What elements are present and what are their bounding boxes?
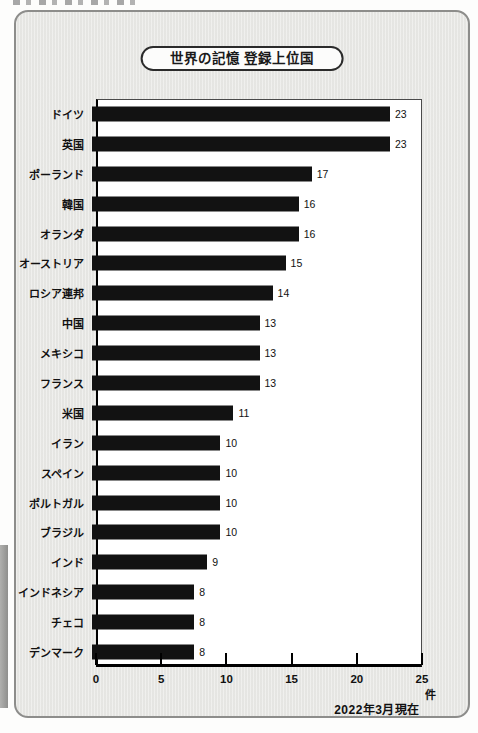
x-tick-label: 0 (93, 673, 99, 685)
bar-row: ブラジル 10 (16, 518, 422, 547)
bar-track: 23 (90, 129, 416, 158)
bar (92, 495, 220, 510)
x-tick-label: 15 (285, 673, 298, 685)
bar-track: 16 (90, 219, 416, 248)
bar-rows: ドイツ 23 英国 23 ポーランド 17 韓国 16 オランダ 16 (16, 99, 422, 667)
bar (92, 465, 220, 480)
bar-row: オーストリア 15 (16, 249, 422, 278)
bar-track: 13 (90, 309, 416, 338)
bar (92, 555, 207, 570)
bar-track: 10 (90, 488, 416, 517)
page: 世界の記憶 登録上位国 ドイツ 23 英国 23 ポーランド 17 韓国 16 (0, 0, 478, 733)
bar-track: 8 (90, 608, 416, 637)
x-tick-mark (356, 653, 358, 665)
bar-row: ドイツ 23 (16, 99, 422, 128)
bar-row: メキシコ 13 (16, 339, 422, 368)
bar (92, 525, 220, 540)
category-label: ポーランド (16, 166, 90, 182)
bar-track: 8 (90, 578, 416, 607)
bar-value-label: 8 (199, 646, 205, 658)
x-tick-label: 20 (350, 673, 363, 685)
category-label: ロシア連邦 (16, 285, 90, 301)
bar-value-label: 10 (225, 497, 237, 509)
x-tick-mark (225, 653, 227, 665)
bar-value-label: 8 (199, 616, 205, 628)
bar-track: 10 (90, 518, 416, 547)
chart-title: 世界の記憶 登録上位国 (141, 46, 344, 71)
bar (92, 316, 260, 331)
bar-value-label: 13 (265, 317, 277, 329)
category-label: チェコ (16, 614, 90, 630)
category-label: ブラジル (16, 524, 90, 540)
bar-track: 13 (90, 339, 416, 368)
source-date-note: 2022年3月現在 (334, 700, 420, 717)
category-label: 中国 (16, 315, 90, 331)
category-label: ドイツ (16, 106, 90, 122)
bar-row: イラン 10 (16, 428, 422, 457)
x-tick-mark (291, 653, 293, 665)
bar-row: 英国 23 (16, 129, 422, 158)
bar-chart: ドイツ 23 英国 23 ポーランド 17 韓国 16 オランダ 16 (16, 99, 468, 667)
category-label: フランス (16, 375, 90, 391)
bar-value-label: 23 (395, 108, 407, 120)
category-label: インドネシア (16, 584, 90, 600)
bar-value-label: 9 (212, 556, 218, 568)
bar-row: オランダ 16 (16, 219, 422, 248)
category-label: スペイン (16, 465, 90, 481)
x-axis-unit-label: 件 (425, 686, 436, 702)
x-tick-label: 5 (158, 673, 164, 685)
bar (92, 286, 273, 301)
bar-value-label: 11 (238, 407, 249, 419)
bar-track: 9 (90, 548, 416, 577)
category-label: 英国 (16, 136, 90, 152)
bar-track: 13 (90, 368, 416, 397)
bar (92, 615, 194, 630)
bar-value-label: 14 (278, 287, 290, 299)
bar-row: インド 9 (16, 548, 422, 577)
bar (92, 405, 233, 420)
x-tick-mark (95, 653, 97, 665)
bar-row: 中国 13 (16, 309, 422, 338)
bar-row: スペイン 10 (16, 458, 422, 487)
bar (92, 435, 220, 450)
bar-row: ロシア連邦 14 (16, 279, 422, 308)
bar (92, 585, 194, 600)
category-label: 米国 (16, 405, 90, 421)
bar-row: 米国 11 (16, 398, 422, 427)
bar (92, 166, 312, 181)
bar-value-label: 16 (304, 198, 316, 210)
bar (92, 106, 390, 121)
bar-value-label: 13 (265, 377, 277, 389)
bar-track: 14 (90, 279, 416, 308)
bar-track: 8 (90, 637, 416, 666)
bar-value-label: 13 (265, 347, 277, 359)
x-tick-mark (421, 653, 423, 665)
bar (92, 375, 260, 390)
category-label: インド (16, 554, 90, 570)
bar (92, 256, 286, 271)
category-label: ポルトガル (16, 495, 90, 511)
category-label: オランダ (16, 226, 90, 242)
x-tick-label: 25 (416, 673, 429, 685)
bar-value-label: 15 (291, 257, 303, 269)
x-tick-label: 10 (220, 673, 233, 685)
bar-track: 10 (90, 428, 416, 457)
bar (92, 346, 260, 361)
bar-row: インドネシア 8 (16, 578, 422, 607)
bar-value-label: 16 (304, 228, 316, 240)
bar-track: 10 (90, 458, 416, 487)
category-label: オーストリア (16, 255, 90, 271)
x-tick-mark (160, 653, 162, 665)
bar-track: 23 (90, 99, 416, 128)
bar-value-label: 8 (199, 586, 205, 598)
bar-row: フランス 13 (16, 368, 422, 397)
bar-row: ポルトガル 10 (16, 488, 422, 517)
bar-value-label: 23 (395, 138, 407, 150)
bar (92, 226, 299, 241)
bar (92, 136, 390, 151)
bar-row: ポーランド 17 (16, 159, 422, 188)
bar-value-label: 10 (225, 437, 237, 449)
bar-track: 17 (90, 159, 416, 188)
chart-panel: 世界の記憶 登録上位国 ドイツ 23 英国 23 ポーランド 17 韓国 16 (14, 10, 470, 718)
category-label: メキシコ (16, 345, 90, 361)
